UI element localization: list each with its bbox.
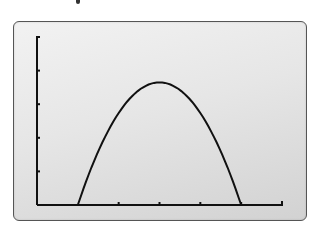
chart-plot bbox=[0, 0, 312, 230]
y-axis bbox=[37, 37, 40, 205]
parabola-curve bbox=[78, 82, 241, 205]
axes bbox=[37, 37, 282, 205]
